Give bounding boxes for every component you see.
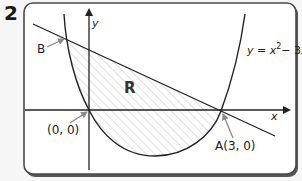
point-a-label: A(3, 0): [215, 139, 255, 153]
eq-x2: x: [301, 44, 302, 57]
origin-label: (0, 0): [47, 123, 79, 137]
y-axis-label: y: [92, 17, 99, 30]
eq-minus-3: − 3: [281, 44, 301, 57]
eq-equals: =: [254, 44, 270, 57]
curve-equation-label: y = x2− 3x: [247, 42, 302, 57]
diagram: [0, 0, 302, 181]
x-axis-label: x: [271, 110, 278, 123]
region-r-label: R: [124, 79, 136, 97]
point-b-label: B: [37, 42, 45, 56]
